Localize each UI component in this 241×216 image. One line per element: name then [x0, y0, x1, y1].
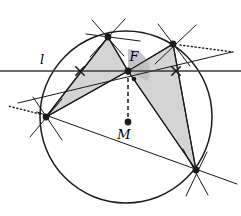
point-dot-a-top: [105, 34, 112, 41]
geometry-figure: l F M: [0, 0, 241, 216]
label-point-F: F: [128, 49, 139, 64]
point-dot-c-lower-right: [193, 167, 200, 174]
label-point-M: M: [116, 127, 131, 142]
angle-inner-dot: [132, 77, 137, 82]
geometry-canvas: l F M: [0, 0, 241, 216]
point-dot-d-left: [43, 114, 50, 121]
label-line-l: l: [40, 52, 44, 67]
dotted-ray-left: [8, 106, 40, 114]
point-dot-m: [125, 119, 132, 126]
dotted-ray-right: [180, 45, 233, 52]
point-dot-b-upper-right: [170, 41, 177, 48]
point-dot-f: [125, 68, 132, 75]
